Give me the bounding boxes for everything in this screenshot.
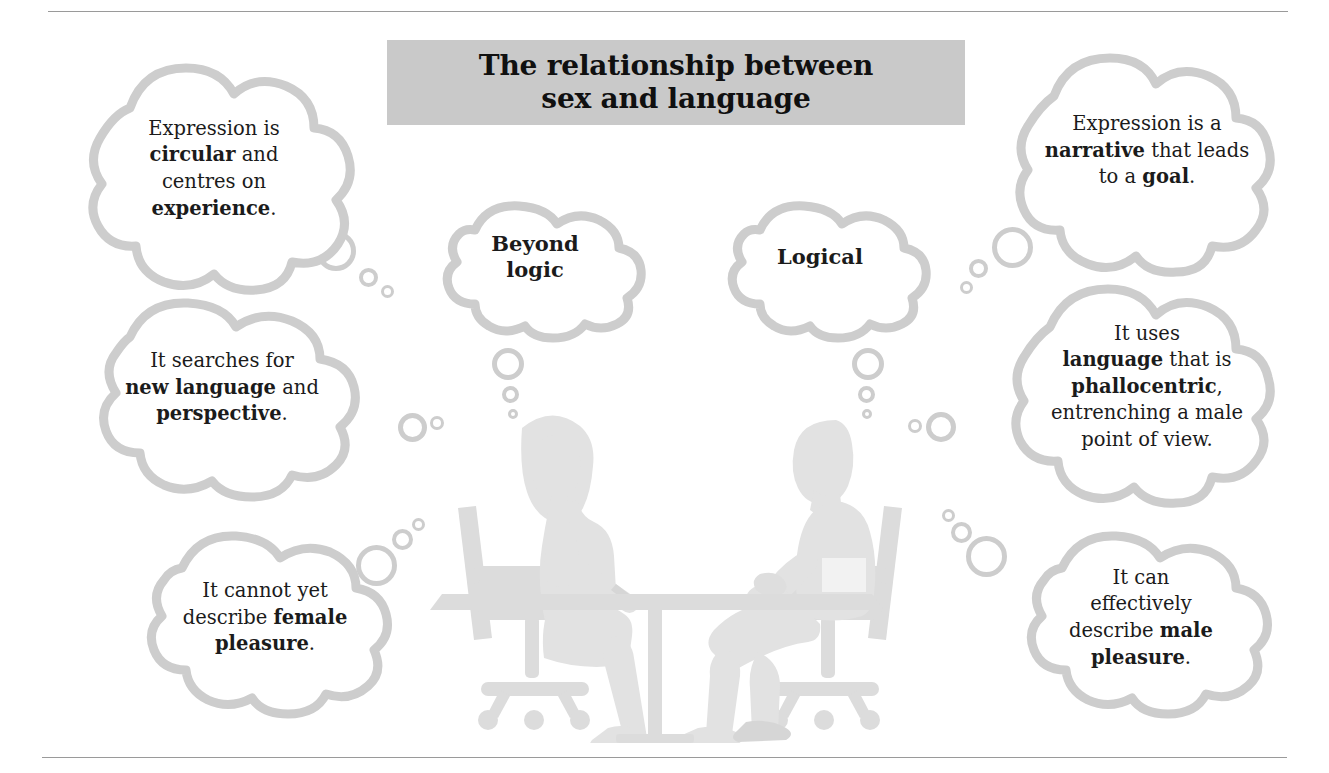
cloud-text: Logical [710, 196, 930, 336]
thought-bubble [492, 348, 524, 380]
thought-cloud-middle-right: It useslanguage that isphallocentric,ent… [978, 283, 1308, 503]
top-divider-rule [48, 11, 1288, 12]
thought-cloud-center-left: Beyondlogic [425, 196, 645, 336]
thought-cloud-top-left: Expression iscircular andcentres onexper… [58, 62, 376, 290]
cloud-text-top-left: Expression iscircular andcentres onexper… [98, 116, 330, 222]
thought-cloud-center-right: Logical [710, 196, 930, 336]
thought-bubble [942, 509, 955, 522]
thought-bubble [908, 419, 922, 433]
thought-bubble [430, 416, 444, 430]
cloud-text-center-left: Beyondlogic [471, 231, 599, 283]
cloud-text-top-right: Expression is anarrative that leadsto a … [1036, 111, 1258, 191]
thought-bubble [858, 386, 875, 403]
cloud-text: It searches fornew language andperspecti… [60, 295, 400, 491]
thought-bubble [960, 281, 973, 294]
title-banner: The relationship between sex and languag… [387, 40, 965, 125]
thought-bubble [502, 386, 519, 403]
cloud-text-middle-right: It useslanguage that isphallocentric,ent… [1030, 321, 1264, 454]
thought-bubble [951, 522, 972, 543]
thought-bubble [852, 348, 884, 380]
thought-bubble [398, 413, 427, 442]
cloud-text: It useslanguage that isphallocentric,ent… [978, 283, 1308, 503]
cloud-text-bottom-left: It cannot yetdescribe femalepleasure. [160, 578, 370, 658]
meeting-silhouette-illustration [430, 398, 930, 743]
infographic-canvas: The relationship between sex and languag… [0, 0, 1329, 773]
thought-bubble [862, 409, 872, 419]
cloud-text-center-right: Logical [756, 244, 884, 270]
cloud-text: Expression is anarrative that leadsto a … [988, 52, 1300, 272]
cloud-text-bottom-right: It caneffectivelydescribe malepleasure. [1040, 565, 1242, 671]
thought-bubble [412, 518, 425, 531]
cloud-text: Expression iscircular andcentres onexper… [58, 62, 376, 290]
cloud-text: Beyondlogic [425, 196, 645, 336]
thought-cloud-bottom-left: It cannot yetdescribe femalepleasure. [120, 528, 410, 718]
thought-bubble [926, 412, 956, 442]
thought-bubble [969, 259, 988, 278]
cloud-text: It caneffectivelydescribe malepleasure. [1000, 528, 1288, 720]
thought-cloud-bottom-right: It caneffectivelydescribe malepleasure. [1000, 528, 1288, 720]
cloud-text: It cannot yetdescribe femalepleasure. [120, 528, 410, 718]
bottom-divider-rule [42, 757, 1287, 758]
thought-bubble [508, 409, 518, 419]
page-title: The relationship between sex and languag… [479, 50, 873, 115]
cloud-text-middle-left: It searches fornew language andperspecti… [100, 348, 344, 428]
thought-cloud-top-right: Expression is anarrative that leadsto a … [988, 52, 1300, 272]
thought-cloud-middle-left: It searches fornew language andperspecti… [60, 295, 400, 491]
